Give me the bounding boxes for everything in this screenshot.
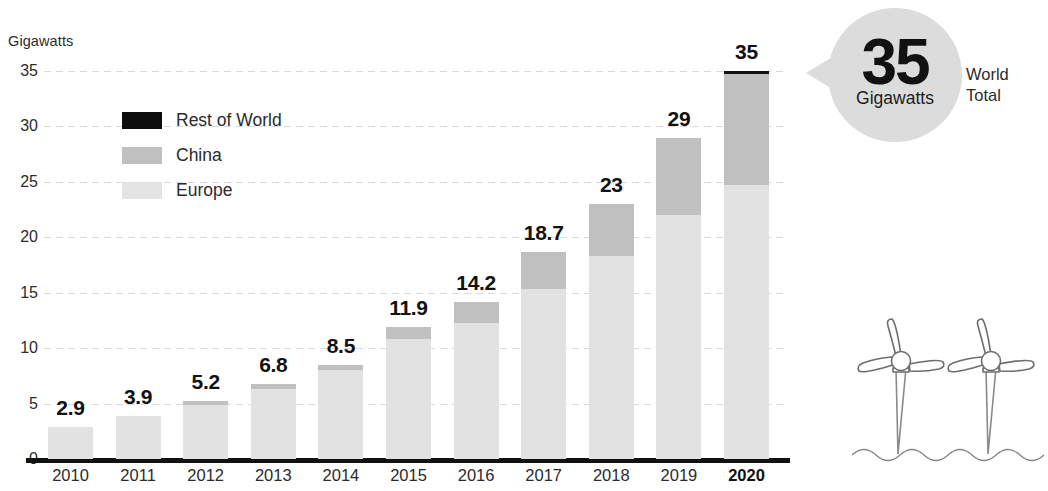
bar-segment-europe [48,427,93,459]
bar-segment-europe [454,323,499,459]
bar-value-label-2015: 11.9 [364,296,454,320]
x-axis-tick-label-2013: 2013 [238,466,308,485]
bar-value-label-2017: 18.7 [499,221,589,245]
y-axis-tick-label: 10 [8,339,38,357]
callout-side-line1: World [966,64,1009,85]
y-axis-tick-label: 30 [8,117,38,135]
x-axis-tick-label-2012: 2012 [171,466,241,485]
bar-segment-china [251,384,296,390]
bar-segment-europe [521,289,566,459]
bar-value-label-2016: 14.2 [431,271,521,295]
x-axis-tick-label-2010: 2010 [36,466,106,485]
callout-value: 35 [828,30,962,94]
bar-segment-china [521,252,566,290]
legend-item-rest-of-world: Rest of World [122,106,282,135]
chart-canvas: Gigawatts 05101520253035 2.93.95.26.88.5… [0,0,1048,491]
wind-turbines-illustration-icon [852,292,1048,491]
legend-label-europe: Europe [176,180,232,201]
bar-segment-china [318,365,363,371]
callout-unit: Gigawatts [828,88,962,109]
bar-segment-europe [724,185,769,459]
bar-2018[interactable] [589,204,634,459]
legend-swatch-europe-icon [122,182,162,199]
callout-side-label: World Total [966,64,1009,105]
gridline [44,71,788,72]
legend-swatch-rest-of-world-icon [122,112,162,129]
callout-side-line2: Total [966,85,1009,106]
bar-segment-china [386,327,431,339]
x-axis-tick-label-2019: 2019 [644,466,714,485]
x-axis-tick-label-2014: 2014 [306,466,376,485]
x-axis-tick-label-2020: 2020 [712,466,782,485]
bar-segment-china [656,138,701,216]
chart-legend: Rest of World China Europe [122,106,282,211]
y-axis-tick-label: 15 [8,284,38,302]
bar-segment-europe [183,405,228,459]
bar-2015[interactable] [386,327,431,459]
legend-swatch-china-icon [122,147,162,164]
y-axis-tick-label: 35 [8,62,38,80]
bar-segment-europe [589,256,634,459]
bar-2010[interactable] [48,427,93,459]
bar-segment-europe [251,389,296,459]
legend-label-china: China [176,145,222,166]
bar-segment-europe [656,215,701,459]
bar-2012[interactable] [183,401,228,459]
bar-2020[interactable] [724,71,769,459]
bar-segment-china [183,401,228,404]
bar-value-label-2020: 35 [702,40,792,64]
bar-2013[interactable] [251,384,296,459]
bar-segment-europe [386,339,431,459]
bar-value-label-2019: 29 [634,107,724,131]
bar-2011[interactable] [116,416,161,459]
x-axis-tick-label-2015: 2015 [374,466,444,485]
bar-segment-china [589,204,634,256]
x-axis-tick-label-2011: 2011 [103,466,173,485]
bar-segment-china [454,302,499,323]
bar-value-label-2014: 8.5 [296,334,386,358]
bar-segment-europe [116,416,161,459]
y-axis-tick-label: 25 [8,173,38,191]
x-axis-tick-label-2017: 2017 [509,466,579,485]
bar-2019[interactable] [656,138,701,459]
x-axis-tick-label-2016: 2016 [441,466,511,485]
y-axis-title: Gigawatts [8,33,73,49]
bar-2016[interactable] [454,302,499,459]
legend-label-rest-of-world: Rest of World [176,110,282,131]
bar-segment-europe [318,370,363,459]
bar-top-cap [724,71,769,74]
legend-item-china: China [122,141,282,170]
bar-segment-china [724,71,769,185]
bar-2017[interactable] [521,252,566,459]
bar-2014[interactable] [318,365,363,459]
legend-item-europe: Europe [122,176,282,205]
y-axis-tick-label: 20 [8,228,38,246]
x-axis-tick-label-2018: 2018 [576,466,646,485]
bar-value-label-2018: 23 [566,173,656,197]
